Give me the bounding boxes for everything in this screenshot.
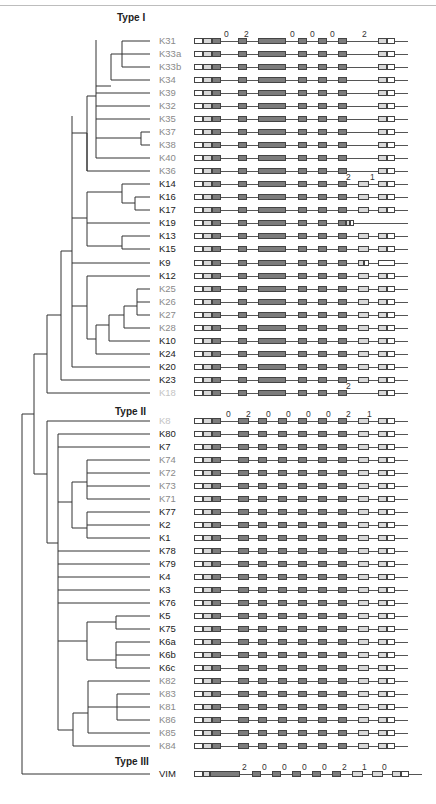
exon-box [387,155,395,161]
gene-label-k6a: K6a [159,636,176,648]
exon-box [203,273,212,279]
exon-box [212,431,221,437]
exon-box [203,142,212,148]
exon-box [203,771,210,777]
exon-box [212,246,221,252]
gene-structure-k39 [194,87,436,99]
exon-box [194,142,203,148]
exon-box [298,233,307,239]
exon-box [212,377,221,383]
exon-box [358,548,369,554]
exon-box [238,390,247,396]
exon-box [194,233,203,239]
exon-box [238,431,249,437]
exon-box [278,431,287,437]
exon-box [378,194,387,200]
exon-box [387,246,395,252]
gene-structure-k37 [194,126,436,138]
exon-box [338,338,347,344]
exon-box [212,483,221,489]
exon-box [194,574,203,580]
exon-box [278,587,287,593]
exon-box [238,90,247,96]
exon-box [338,535,347,541]
gene-structure-k15 [194,243,436,255]
exon-box [378,325,387,331]
exon-box [212,181,221,187]
exon-box [387,390,395,396]
exon-box [238,717,249,723]
exon-box [212,103,221,109]
exon-box [387,351,395,357]
exon-box [318,181,327,187]
exon-box [212,260,221,266]
gene-structure-k3 [194,584,436,596]
exon-box [258,273,286,279]
exon-box [318,155,327,161]
exon-box [238,704,249,710]
exon-box [338,483,347,489]
exon-box [258,246,286,252]
exon-box [378,743,387,749]
exon-box [318,260,327,266]
gene-label-k14: K14 [159,178,176,190]
exon-box [203,717,212,723]
exon-box [318,377,327,383]
exon-box [194,273,203,279]
exon-box [378,717,387,723]
exon-box [378,77,387,83]
exon-box [212,194,221,200]
gene-label-k33a: K33a [159,48,181,60]
exon-box [387,743,395,749]
exon-box [318,142,327,148]
exon-box [203,483,212,489]
exon-box [358,444,369,450]
exon-box [358,181,369,187]
exon-box [212,704,221,710]
gene-label-k25: K25 [159,283,176,295]
exon-box [318,626,327,632]
exon-box [258,496,267,502]
exon-box [238,168,247,174]
exon-box [387,312,395,318]
exon-box [318,129,327,135]
exon-box [378,496,387,502]
exon-box [387,691,395,697]
gene-structure-k20 [194,361,436,373]
exon-box [278,457,287,463]
exon-box [387,548,395,554]
gene-structure-k73 [194,480,436,492]
exon-box [387,299,395,305]
exon-box [358,613,369,619]
exon-box [212,338,221,344]
exon-box [298,587,307,593]
exon-box [258,652,267,658]
exon-box [258,116,286,122]
exon-box [194,771,203,777]
exon-box [338,678,347,684]
gene-structure-k7 [194,441,436,453]
exon-box [258,613,267,619]
exon-box [258,743,267,749]
gene-label-k2: K2 [159,519,171,531]
exon-box [318,51,327,57]
exon-box [203,730,212,736]
exon-box [318,38,327,44]
exon-box [298,38,307,44]
gene-label-k78: K78 [159,545,176,557]
exon-box [278,743,287,749]
exon-box [194,587,203,593]
exon-box [387,600,395,606]
exon-box [238,129,247,135]
exon-box [258,548,267,554]
exon-box [292,771,301,777]
exon-box [194,364,203,370]
gene-label-k75: K75 [159,623,176,635]
exon-box [238,509,249,515]
exon-box [358,652,369,658]
exon-box [387,51,395,57]
gene-structure-k35 [194,113,436,125]
exon-box [338,103,347,109]
exon-box [387,444,395,450]
exon-box [272,771,281,777]
